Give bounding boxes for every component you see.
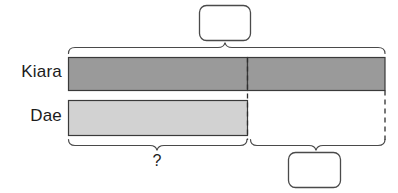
difference-brace-bottom-right	[251, 140, 386, 151]
shared-amount-brace-bottom-left	[69, 140, 248, 151]
box-top[interactable]	[200, 6, 251, 41]
total-brace-top	[69, 43, 386, 54]
kiara-bar-extra-segment	[248, 58, 386, 91]
box-bottom[interactable]	[289, 153, 341, 188]
bar-label-dae: Dae	[0, 106, 62, 126]
diagram-graphics	[0, 0, 398, 193]
dae-bar	[69, 101, 248, 136]
unknown-question-mark: ?	[143, 152, 171, 170]
bar-label-kiara: Kiara	[0, 62, 62, 82]
tape-diagram-canvas: Kiara Dae ?	[0, 0, 398, 193]
kiara-bar-matched-segment	[69, 58, 248, 91]
